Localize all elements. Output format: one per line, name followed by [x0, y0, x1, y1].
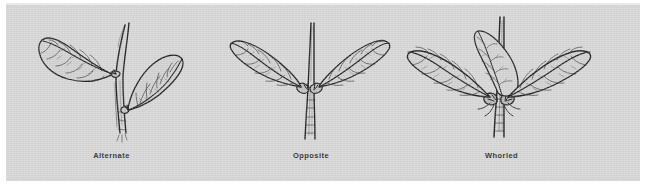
panel-alternate: Alternate	[24, 3, 199, 181]
leaf-left	[407, 47, 490, 97]
leaf-center-back	[474, 31, 518, 96]
caption-alternate: Alternate	[24, 151, 199, 160]
illustration-plate: Alternate	[6, 3, 640, 181]
panel-opposite: Opposite	[221, 3, 401, 181]
figure-root: Alternate	[0, 0, 652, 191]
leaf-right	[319, 41, 390, 87]
stem	[305, 23, 315, 139]
caption-opposite: Opposite	[221, 151, 401, 160]
leaf-upper-left	[39, 38, 112, 81]
caption-whorled: Whorled	[394, 151, 609, 160]
stem	[115, 23, 129, 133]
alternate-leaf-arrangement-drawing	[24, 7, 199, 152]
leaf-right	[508, 47, 591, 97]
leaf-left	[230, 41, 301, 87]
panel-whorled: Whorled	[394, 3, 609, 181]
whorled-leaf-arrangement-drawing	[394, 7, 609, 152]
opposite-leaf-arrangement-drawing	[221, 7, 401, 152]
leaf-lower-right	[128, 55, 183, 110]
